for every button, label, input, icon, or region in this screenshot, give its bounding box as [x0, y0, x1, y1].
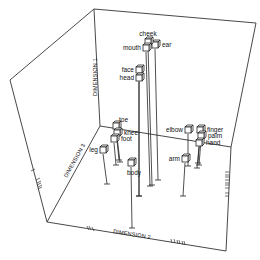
- point-label-body: body: [127, 169, 142, 177]
- drop-line: [103, 154, 107, 184]
- point-label-ear: ear: [162, 41, 172, 48]
- axis-label-dimension-2: DIMENSION 2: [113, 228, 151, 240]
- 3d-scatter-plot: toekneefingerfootpalmelbowhandearlegchee…: [0, 0, 260, 260]
- data-points: toekneefingerfootpalmelbowhandearlegchee…: [89, 30, 224, 228]
- data-point-foot: foot: [111, 134, 132, 142]
- data-point-face: face: [122, 65, 144, 73]
- data-point-mouth: mouth: [123, 43, 151, 51]
- data-point-elbow: elbow: [166, 125, 193, 133]
- point-label-foot: foot: [121, 135, 132, 142]
- point-label-toe: toe: [119, 116, 128, 123]
- point-label-elbow: elbow: [166, 126, 183, 133]
- box-edge-floor-left: [47, 126, 100, 222]
- box-edge-front-right: [226, 147, 231, 251]
- drop-line: [131, 167, 132, 228]
- drop-line: [146, 52, 150, 186]
- point-label-mouth: mouth: [123, 44, 141, 51]
- point-label-hand: hand: [206, 139, 221, 146]
- data-point-arm: arm: [169, 154, 190, 162]
- drop-line: [155, 49, 158, 180]
- box-edge-back-right: [231, 23, 256, 147]
- data-point-body: body: [127, 158, 142, 177]
- data-point-toe: toe: [113, 116, 128, 129]
- data-point-ear: ear: [152, 40, 172, 48]
- box-edge-back-top: [94, 9, 256, 23]
- data-point-leg: leg: [89, 145, 108, 154]
- data-point-head: head: [120, 73, 144, 81]
- box-edge-front-left: [10, 80, 47, 222]
- box-edge-top-left: [10, 9, 94, 80]
- axis-label-dimension-1: DIMENSION 1: [92, 58, 98, 96]
- point-label-face: face: [122, 66, 135, 73]
- data-point-hand: hand: [196, 138, 221, 146]
- point-label-leg: leg: [89, 146, 98, 154]
- point-label-arm: arm: [169, 155, 180, 162]
- drop-line: [183, 163, 185, 196]
- point-label-cheek: cheek: [139, 30, 157, 37]
- drop-line: [148, 46, 152, 185]
- drop-line: [114, 143, 116, 165]
- point-label-head: head: [120, 74, 135, 81]
